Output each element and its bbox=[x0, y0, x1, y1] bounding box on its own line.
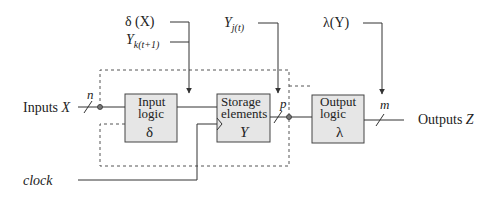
delta-x-annotation: δ (X) bbox=[125, 15, 155, 29]
y-j-annotation: Yj(t) bbox=[224, 16, 244, 33]
storage-bus-width: p bbox=[280, 97, 287, 110]
storage-elements-symbol: Y bbox=[240, 125, 248, 140]
outputs-label: Outputs Z bbox=[418, 113, 474, 127]
inputs-label: Inputs X bbox=[23, 101, 70, 115]
input-logic-symbol: δ bbox=[146, 125, 153, 140]
storage-junction-dot bbox=[287, 115, 292, 120]
input-logic-label: Inputlogic bbox=[138, 96, 165, 121]
annotation-arrows bbox=[170, 22, 382, 94]
clock-label: clock bbox=[23, 174, 53, 188]
y-k-annotation: Yk(t+1) bbox=[126, 33, 159, 50]
lambda-y-annotation: λ(Y) bbox=[323, 16, 349, 30]
y-k-subscript: k(t+1) bbox=[134, 39, 160, 50]
output-logic-symbol: λ bbox=[336, 125, 343, 140]
output-bus-width: m bbox=[380, 98, 389, 111]
storage-elements-label: Storageelements bbox=[221, 96, 267, 121]
y-j-subscript: j(t) bbox=[232, 22, 244, 33]
input-bus-width: n bbox=[87, 88, 94, 101]
output-logic-label: Outputlogic bbox=[320, 96, 356, 121]
input-junction-dot bbox=[98, 105, 103, 110]
